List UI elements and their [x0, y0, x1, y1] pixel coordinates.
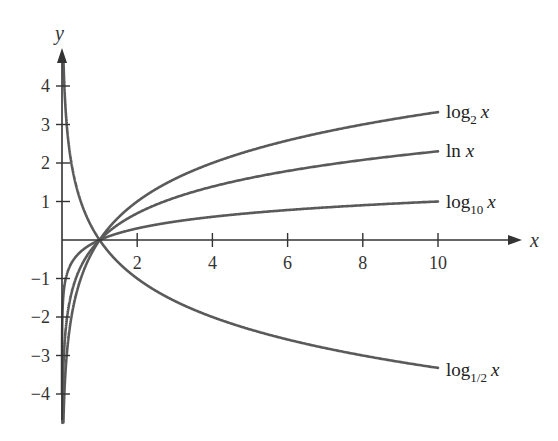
curve-label: log2x	[446, 101, 490, 127]
y-tick-label: 2	[41, 153, 50, 173]
curve-labels-group: log2xlnxlog10xlog1/2x	[446, 101, 500, 385]
y-tick-label: −2	[31, 307, 50, 327]
x-tick-label: 8	[358, 253, 367, 273]
x-tick-label: 6	[283, 253, 292, 273]
y-tick-label: 1	[41, 192, 50, 212]
y-tick-label: −3	[31, 346, 50, 366]
log-functions-chart: x y 246810−4−3−2−11234 log2xlnxlog10xlog…	[0, 0, 558, 441]
curve-label: lnx	[446, 140, 475, 161]
y-tick-label: 3	[41, 115, 50, 135]
curve-log-10-x	[62, 202, 438, 395]
x-axis-arrow-icon	[508, 235, 522, 245]
y-axis-label: y	[53, 22, 64, 45]
x-tick-label: 10	[429, 253, 447, 273]
y-tick-label: −1	[31, 269, 50, 289]
x-tick-label: 2	[133, 253, 142, 273]
x-tick-label: 4	[208, 253, 217, 273]
curves-group	[62, 63, 438, 423]
y-tick-label: 4	[41, 76, 50, 96]
y-axis-arrow-icon	[57, 48, 67, 63]
x-axis-label: x	[529, 229, 539, 251]
curve-ln-x	[62, 151, 438, 422]
y-tick-label: −4	[31, 384, 50, 404]
curve-label: log1/2x	[446, 359, 500, 385]
curve-label: log10x	[446, 191, 496, 217]
